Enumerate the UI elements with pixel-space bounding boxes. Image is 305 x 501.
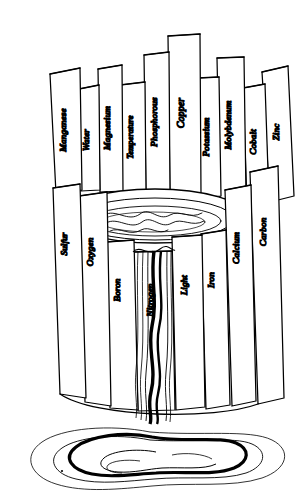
stave-label-manganese: Manganese (58, 108, 68, 152)
stave-label-potassium: Potassium (201, 117, 211, 157)
water-puddle (31, 428, 285, 490)
stave-label-temperature: Temperature (126, 115, 135, 158)
stave-phosphorous: Phosphorous (144, 52, 170, 194)
stave-label-oxygen: Oxygen (85, 237, 95, 266)
liebig-barrel-figure: Zinc Cobalt Molybdenum Potassium Copper … (0, 0, 305, 501)
stave-molybdenum: Molybdenum (217, 57, 246, 199)
stave-label-zinc: Zinc (271, 124, 281, 141)
stave-magnesium: Magnesium (98, 65, 123, 192)
stave-label-light: Light (179, 275, 189, 296)
stave-temperature: Temperature (120, 82, 146, 193)
stave-copper: Copper (168, 34, 201, 195)
stave-iron: Iron (201, 230, 230, 409)
stave-label-magnesium: Magnesium (102, 106, 112, 151)
stave-label-water: Water (81, 129, 91, 151)
stave-light: Light (172, 235, 205, 410)
stave-label-phosphorous: Phosphorous (149, 97, 159, 148)
stave-manganese: Manganese (50, 68, 82, 194)
stave-label-copper: Copper (175, 98, 186, 129)
stave-label-carbon: Carbon (258, 217, 268, 246)
stave-label-cobalt: Cobalt (248, 129, 258, 155)
stave-label-sulfur: Sulfur (59, 232, 69, 255)
stave-label-molybdenum: Molybdenum (223, 100, 233, 150)
stave-label-boron: Boron (112, 278, 122, 301)
barrel-illustration: Zinc Cobalt Molybdenum Potassium Copper … (0, 0, 305, 501)
stave-sulfur: Sulfur (53, 184, 86, 398)
stave-label-calcium: Calcium (231, 232, 241, 264)
stave-label-iron: Iron (206, 272, 216, 289)
